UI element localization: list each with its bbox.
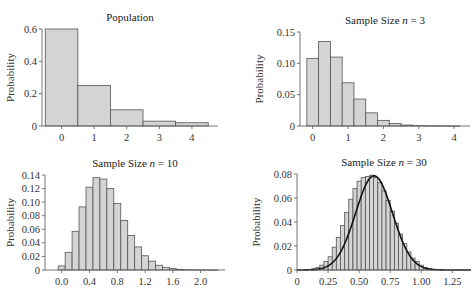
x-tick-label: 1.25: [443, 276, 461, 287]
x-tick-label: 1.6: [166, 276, 179, 287]
x-tick-label: 0.25: [319, 276, 337, 287]
histogram-bar: [135, 247, 142, 270]
y-tick-label: 0.04: [22, 237, 41, 248]
x-tick-label: 1: [92, 132, 97, 143]
histogram-bar: [176, 123, 209, 126]
y-axis-label: Probability: [250, 197, 262, 246]
y-tick-label: 0.6: [24, 24, 37, 35]
chart-title: Sample Size n = 30: [341, 156, 427, 168]
x-tick-label: 3: [416, 132, 421, 143]
x-tick-label: 0.50: [350, 276, 368, 287]
y-tick-label: 0.14: [22, 170, 41, 181]
histogram-bar: [378, 120, 390, 126]
histogram-bar: [72, 231, 79, 270]
histogram-bar: [366, 113, 378, 126]
y-tick-label: 0: [35, 265, 40, 276]
y-tick-label: 0.4: [24, 56, 38, 67]
x-tick-label: 0.4: [83, 276, 97, 287]
histogram-bar: [142, 256, 149, 270]
y-tick-label: 0.06: [274, 193, 292, 204]
y-tick-label: 0: [287, 265, 292, 276]
x-tick-label: 0: [59, 132, 64, 143]
histogram-bar: [156, 265, 163, 270]
y-tick-label: 0: [290, 121, 295, 132]
x-tick-label: 2.0: [194, 276, 207, 287]
x-tick-label: 0: [310, 132, 315, 143]
histogram-bar: [365, 176, 369, 270]
x-tick-label: 1.00: [412, 276, 430, 287]
x-tick-label: 1: [345, 132, 350, 143]
histogram-bar: [342, 83, 354, 126]
histogram-bar: [114, 204, 121, 271]
histogram-bar: [349, 199, 353, 270]
sampling-distribution-figure: Population00.20.40.601234ProbabilitySamp…: [0, 0, 474, 297]
y-tick-label: 0.10: [22, 197, 40, 208]
histogram-bar: [390, 211, 394, 270]
y-tick-label: 0.2: [24, 88, 37, 99]
x-tick-label: 3: [157, 132, 162, 143]
histogram-bar: [110, 110, 143, 126]
x-tick-label: 2: [124, 132, 129, 143]
histogram-bar: [330, 57, 342, 126]
chart-panel-3: Sample Size n = 3000.020.040.060.0800.25…: [250, 156, 471, 287]
histogram-bar: [78, 86, 111, 126]
histogram-bar: [382, 191, 386, 270]
y-tick-label: 0.02: [274, 241, 292, 252]
y-tick-label: 0.06: [22, 224, 40, 235]
x-tick-label: 0.8: [111, 276, 124, 287]
histogram-bar: [386, 200, 390, 270]
chart-panel-0: Population00.20.40.601234Probability: [4, 11, 218, 143]
x-tick-label: 0.75: [381, 276, 399, 287]
histogram-bar: [143, 121, 176, 126]
histogram-bar: [307, 58, 319, 126]
y-axis-label: Probability: [4, 198, 16, 247]
y-tick-label: 0.05: [277, 89, 295, 100]
y-axis-label: Probability: [253, 54, 265, 103]
y-tick-label: 0.10: [277, 58, 295, 69]
y-tick-label: 0.04: [274, 217, 293, 228]
x-tick-label: 4: [189, 132, 195, 143]
histogram-bar: [121, 220, 128, 270]
histogram-bar: [378, 182, 382, 270]
histogram-bar: [354, 99, 366, 126]
y-tick-label: 0: [32, 121, 37, 132]
histogram-bar: [65, 252, 72, 270]
histogram-bar: [319, 41, 331, 126]
histogram-bar: [357, 181, 361, 270]
histogram-bar: [86, 187, 93, 270]
histogram-bar: [107, 189, 114, 270]
chart-title: Population: [106, 11, 154, 23]
histogram-bar: [370, 175, 374, 270]
histogram-bar: [93, 178, 100, 270]
y-tick-label: 0.15: [277, 27, 295, 38]
y-tick-label: 0.08: [274, 169, 292, 180]
x-tick-label: 1.2: [139, 276, 152, 287]
x-tick-label: 0: [294, 276, 299, 287]
y-tick-label: 0.02: [22, 251, 40, 262]
histogram-bar: [149, 261, 156, 270]
y-tick-label: 0.12: [22, 183, 40, 194]
histogram-bar: [45, 29, 78, 126]
chart-title: Sample Size n = 3: [345, 14, 426, 26]
chart-title: Sample Size n = 10: [92, 157, 178, 169]
chart-panel-2: Sample Size n = 1000.020.040.060.080.100…: [4, 157, 225, 287]
histogram-bar: [58, 266, 65, 270]
x-tick-label: 0.0: [55, 276, 68, 287]
histogram-bar: [100, 179, 107, 270]
histogram-bar: [374, 178, 378, 270]
histogram-bar: [128, 235, 135, 270]
x-tick-label: 4: [451, 132, 457, 143]
y-tick-label: 0.08: [22, 210, 40, 221]
y-axis-label: Probability: [4, 53, 16, 102]
chart-panel-1: Sample Size n = 300.050.100.1501234Proba…: [253, 14, 470, 143]
histogram-bar: [79, 207, 86, 270]
x-tick-label: 2: [381, 132, 386, 143]
histogram-bar: [353, 188, 357, 270]
